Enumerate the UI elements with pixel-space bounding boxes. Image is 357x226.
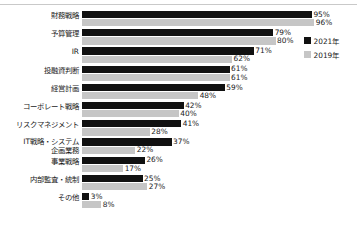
bar-line: 40% [82,110,357,117]
chart-row: 経営計画59%48% [0,84,357,102]
bar-value-label: 96% [314,18,332,27]
bar-2021 [82,138,172,145]
bar-line: 61% [82,74,357,81]
bar-2021 [82,175,143,182]
category-label: 財務戦略 [0,11,79,21]
legend-label-2021: 2021年 [314,35,340,46]
legend-swatch-2021-icon [304,37,311,44]
bar-value-label: 59% [225,83,243,92]
category-label: リスクマネジメント [0,120,79,130]
bar-group: 3%8% [82,193,357,211]
bar-2021 [82,102,184,109]
bar-value-label: 40% [179,109,197,118]
chart-row: 事業戦略26%17% [0,157,357,175]
legend-label-2019: 2019年 [314,49,340,60]
bar-value-label: 41% [181,119,199,128]
bar-2019 [82,92,198,99]
category-label: コーポレート戦略 [0,102,79,112]
bar-line: 61% [82,66,357,73]
bar-value-label: 62% [232,54,250,63]
bar-2019 [82,201,101,208]
category-label: 事業戦略 [0,157,79,167]
bar-value-label: 26% [145,155,163,164]
bar-value-label: 27% [147,182,165,191]
bar-2019 [82,128,150,135]
bar-2019 [82,37,276,44]
chart-row: IT戦略・システム 企画業務37%22% [0,138,357,156]
bar-line: 25% [82,175,357,182]
bar-value-label: 8% [101,200,114,209]
category-label: 内部監査・統制 [0,175,79,185]
bar-line: 8% [82,201,357,208]
bar-2019 [82,183,147,190]
bar-line: 27% [82,183,357,190]
bar-2019 [82,56,232,63]
bar-2019 [82,110,179,117]
category-label: IR [0,47,79,57]
legend-item-2021: 2021年 [304,35,339,46]
bar-line: 42% [82,102,357,109]
bar-2021 [82,193,89,200]
legend-swatch-2019-icon [304,51,311,58]
legend-item-2019: 2019年 [304,49,339,60]
bar-2021 [82,11,312,18]
bar-line: 37% [82,138,357,145]
category-label: 予算管理 [0,29,79,39]
bar-line: 22% [82,147,357,154]
category-label: 投融資判断 [0,66,79,76]
bar-line: 59% [82,84,357,91]
category-label: その他 [0,193,79,203]
bar-group: 26%17% [82,157,357,175]
bar-2019 [82,147,135,154]
category-label: 経営計画 [0,84,79,94]
bar-2019 [82,165,123,172]
bar-line: 96% [82,19,357,26]
bar-line: 3% [82,193,357,200]
bar-group: 37%22% [82,138,357,156]
bar-chart: 財務戦略95%96%予算管理79%80%IR71%62%投融資判断61%61%経… [0,0,357,226]
bar-value-label: 71% [254,46,272,55]
bar-2021 [82,47,254,54]
bar-line: 17% [82,165,357,172]
bar-group: 41%28% [82,120,357,138]
top-divider [0,4,357,5]
bar-line: 28% [82,128,357,135]
bar-line: 48% [82,92,357,99]
bar-2021 [82,66,230,73]
chart-row: 財務戦略95%96% [0,11,357,29]
bar-value-label: 22% [135,145,153,154]
bar-2021 [82,29,273,36]
category-label: IT戦略・システム 企画業務 [0,138,79,155]
bar-value-label: 80% [276,36,294,45]
bar-group: 42%40% [82,102,357,120]
bar-group: 25%27% [82,175,357,193]
bar-2019 [82,19,314,26]
chart-row: 投融資判断61%61% [0,66,357,84]
chart-legend: 2021年 2019年 [304,35,339,63]
bar-value-label: 48% [198,91,216,100]
bar-group: 59%48% [82,84,357,102]
chart-row: コーポレート戦略42%40% [0,102,357,120]
bar-value-label: 17% [123,164,141,173]
chart-row: その他3%8% [0,193,357,211]
chart-row: 内部監査・統制25%27% [0,175,357,193]
bar-value-label: 37% [172,137,190,146]
bar-line: 41% [82,120,357,127]
bar-group: 95%96% [82,11,357,29]
bar-group: 61%61% [82,66,357,84]
bar-value-label: 28% [150,127,168,136]
bar-2019 [82,74,230,81]
chart-row: リスクマネジメント41%28% [0,120,357,138]
bar-value-label: 61% [230,73,248,82]
